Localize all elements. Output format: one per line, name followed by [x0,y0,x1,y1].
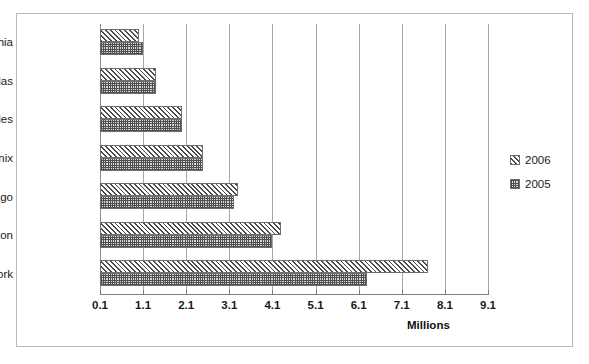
legend-label: 2006 [525,154,551,166]
tick-mark-0.1 [100,290,101,295]
chart-frame: PhiladelphiaDallasLos AngelesPhoenixChic… [16,13,573,347]
x-axis-line [100,294,489,295]
tick-mark-5.1 [316,290,317,295]
legend-entry: 2005 [510,178,570,190]
category-label: Houston [0,229,13,241]
bar-group [100,24,488,63]
legend-label: 2005 [525,178,551,190]
hatch-swatch [510,155,520,165]
bar-2006 [100,222,281,235]
bar-2006 [100,260,428,273]
bar-2005 [100,196,234,209]
x-tick-label: 9.1 [480,299,496,311]
x-tick-label: 5.1 [308,299,324,311]
category-label: Chicago [0,191,13,203]
bar-2005 [100,158,203,171]
bar-group [100,101,488,140]
category-label: New York [0,268,13,280]
x-tick-label: 1.1 [135,299,151,311]
tick-mark-3.1 [229,290,230,295]
category-label: Philadelphia [0,36,13,48]
x-tick-label: 0.1 [92,299,108,311]
bar-2005 [100,42,143,55]
checker-swatch [510,179,520,189]
x-tick-label: 3.1 [221,299,237,311]
bar-2006 [100,183,238,196]
tick-mark-6.1 [359,290,360,295]
bar-group [100,178,488,217]
legend-entry: 2006 [510,154,570,166]
tick-mark-1.1 [143,290,144,295]
category-label: Dallas [0,75,13,87]
bar-2005 [100,273,367,286]
bar-group [100,217,488,256]
x-axis-tick-labels: 0.11.12.13.14.15.16.17.18.19.1 [100,299,489,315]
tick-mark-9.1 [488,290,489,295]
tick-mark-2.1 [186,290,187,295]
bar-group [100,255,488,294]
tick-mark-8.1 [445,290,446,295]
bar-2005 [100,81,156,94]
x-tick-label: 7.1 [394,299,410,311]
plot-area [100,24,488,294]
bar-group [100,140,488,179]
bar-group [100,63,488,102]
chart-legend: 20062005 [510,154,570,202]
category-axis-labels: PhiladelphiaDallasLos AngelesPhoenixChic… [0,24,13,294]
x-tick-label: 8.1 [437,299,453,311]
x-tick-label: 4.1 [264,299,280,311]
bar-2005 [100,235,272,248]
x-tick-label: 2.1 [178,299,194,311]
category-label: Los Angeles [0,113,13,125]
x-tick-label: 6.1 [351,299,367,311]
bar-2006 [100,145,203,158]
gridline-9.1 [488,24,489,294]
bar-2006 [100,68,156,81]
x-axis-title: Millions [407,319,450,331]
bar-2006 [100,29,139,42]
tick-mark-7.1 [402,290,403,295]
category-label: Phoenix [0,152,13,164]
tick-mark-4.1 [272,290,273,295]
bar-2006 [100,106,182,119]
bar-2005 [100,119,182,132]
